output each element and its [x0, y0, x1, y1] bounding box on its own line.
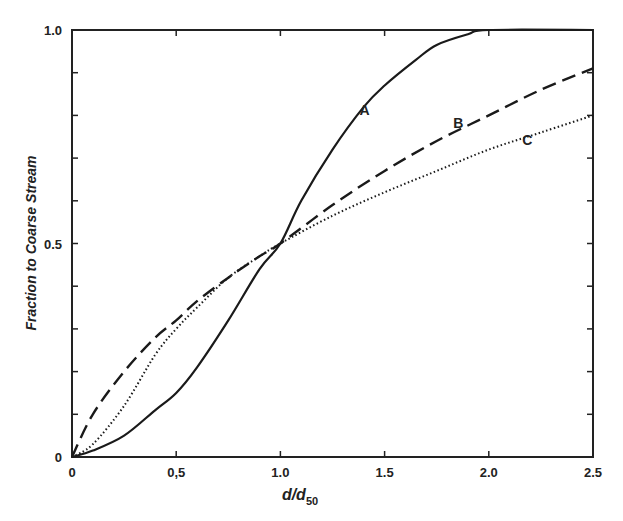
curve-label-b: B [453, 115, 463, 131]
y-tick-label: 1.0 [44, 23, 62, 38]
y-tick-label: 0.5 [44, 237, 62, 252]
x-tick-label: 2.0 [480, 465, 498, 480]
x-axis-title-main: d/d [282, 486, 307, 503]
x-tick-label: 2.5 [584, 465, 602, 480]
y-tick-label: 0 [55, 450, 62, 465]
curve-a [72, 30, 593, 457]
curve-b [72, 68, 593, 457]
x-axis-title-subscript: 50 [306, 495, 318, 507]
curve-labels: ABC [360, 102, 533, 148]
x-tick-label: 0 [68, 465, 75, 480]
x-tick-label: 0,5 [167, 465, 185, 480]
plot-frame [72, 30, 593, 457]
x-tick-label: 1.5 [376, 465, 394, 480]
curves [72, 30, 593, 457]
curve-c [72, 115, 593, 457]
axis-ticks [72, 30, 593, 457]
tick-labels: 00,51.01.52.02.500.51.0 [44, 23, 602, 480]
curve-label-a: A [360, 102, 370, 118]
x-tick-label: 1.0 [271, 465, 289, 480]
chart: 00,51.01.52.02.500.51.0 ABC Fraction to … [0, 0, 623, 521]
curve-label-c: C [522, 132, 532, 148]
x-axis-title: d/d50 [282, 486, 318, 507]
y-axis-title: Fraction to Coarse Stream [23, 155, 39, 330]
